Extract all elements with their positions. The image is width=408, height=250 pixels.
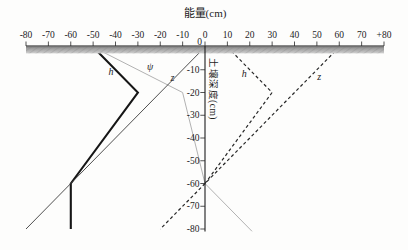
- series-label-h-left: h: [109, 66, 114, 77]
- series-label-z-right: z: [316, 71, 321, 82]
- depth-tick-label: -20: [187, 88, 200, 98]
- energy-tick-label: -50: [87, 30, 100, 40]
- energy-axis-title: 能量(cm): [184, 6, 227, 20]
- series-line-h-below-watertable: [205, 184, 252, 232]
- series-label-h-right: h: [242, 68, 247, 79]
- depth-axis-title: 土壤深度(cm): [207, 58, 219, 120]
- series-label-z-left: z: [170, 72, 175, 83]
- energy-tick-label: 70: [357, 30, 367, 40]
- energy-axis: -80-70-60-50-40-30-20-10010203040506070+…: [20, 30, 392, 47]
- energy-tick-label: 30: [267, 30, 277, 40]
- soil-water-potential-chart: 能量(cm) -80-70-60-50-40-30-20-10010203040…: [0, 0, 408, 250]
- energy-tick-label: -30: [132, 30, 145, 40]
- energy-tick-label: -10: [176, 30, 189, 40]
- depth-tick-label: -50: [187, 156, 200, 166]
- depth-tick-label: -70: [187, 201, 200, 211]
- depth-tick-label: 0: [197, 37, 202, 47]
- energy-tick-label: 40: [290, 30, 300, 40]
- energy-tick-label: 0: [203, 30, 208, 40]
- depth-axis: 0-10-20-30-40-50-60-70-80: [187, 37, 205, 235]
- depth-tick-label: -80: [187, 224, 200, 234]
- energy-tick-label: +80: [377, 30, 392, 40]
- series-label-psi-left: ψ: [147, 61, 154, 72]
- energy-tick-label: 60: [335, 30, 345, 40]
- energy-tick-label: -60: [64, 30, 77, 40]
- energy-tick-label: -80: [20, 30, 33, 40]
- energy-tick-label: 10: [223, 30, 233, 40]
- depth-tick-label: -30: [187, 110, 200, 120]
- depth-tick-label: -60: [187, 179, 200, 189]
- energy-tick-label: 50: [312, 30, 322, 40]
- energy-tick-label: -20: [154, 30, 167, 40]
- series-layer: [26, 47, 339, 231]
- series-line-z-left: [26, 47, 205, 229]
- energy-tick-label: -40: [109, 30, 122, 40]
- depth-tick-label: -40: [187, 133, 200, 143]
- series-line-h-left: [71, 47, 138, 229]
- energy-tick-label: -70: [42, 30, 55, 40]
- depth-tick-label: -10: [187, 65, 200, 75]
- chart-svg: 能量(cm) -80-70-60-50-40-30-20-10010203040…: [0, 0, 408, 250]
- energy-tick-label: 20: [245, 30, 255, 40]
